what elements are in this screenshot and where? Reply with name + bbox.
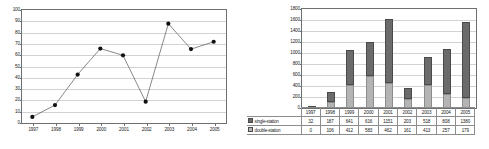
bar-stack [327, 92, 335, 108]
y-axis-tick-mark [300, 97, 302, 98]
bar-stack [404, 88, 412, 108]
table-column-header: 2000 [359, 108, 378, 117]
data-point-marker [189, 47, 193, 51]
table-header-row: 199719981999200020012002200320042005 [247, 108, 475, 117]
bar-segment-double-station [424, 85, 432, 108]
data-point-marker [166, 22, 170, 26]
table-cell: 0 [301, 126, 320, 135]
y-axis-tick-mark [300, 75, 302, 76]
table-cell: 1151 [378, 117, 397, 126]
table-column-header: 2001 [378, 108, 397, 117]
table-cell: 641 [340, 117, 359, 126]
table-cell: 462 [378, 126, 397, 135]
data-point-marker [76, 72, 80, 76]
y-axis-tick-label: 1800 [290, 7, 300, 12]
table-cell: 187 [320, 117, 339, 126]
data-point-marker [98, 46, 102, 50]
legend-item-label: single-station [255, 119, 279, 124]
y-axis-tick-mark [300, 64, 302, 65]
table-cell: 32 [301, 117, 320, 126]
y-axis-tick-label: 600 [293, 73, 300, 78]
bar-chart-plot-area: 020040060080010001200140016001800 [301, 8, 477, 109]
y-axis-tick-label: 1400 [290, 29, 300, 34]
legend-item-label: double-station [255, 128, 281, 133]
table-column-header: 1998 [320, 108, 339, 117]
bar-segment-single-station [327, 92, 335, 102]
bar-chart-panel: 020040060080010001200140016001800 199719… [245, 0, 489, 149]
bar-segment-double-station [346, 85, 354, 108]
y-axis-tick-label: 400 [293, 84, 300, 89]
legend-item-single-station: single-station [247, 117, 301, 126]
y-axis-tick-mark [300, 9, 302, 10]
figure-caption [0, 141, 489, 149]
table-column-header: 2004 [436, 108, 455, 117]
figure-container: 0102030405060708090100199719981999200020… [0, 0, 489, 149]
data-point-marker [30, 115, 34, 119]
bar-segment-double-station [385, 83, 393, 108]
y-axis-tick-mark [300, 53, 302, 54]
y-axis-tick-mark [300, 42, 302, 43]
table-cell: 412 [340, 126, 359, 135]
table-row: double-station0106412583462161413257179 [247, 126, 475, 135]
data-point-marker [53, 103, 57, 107]
y-axis-tick-label: 1200 [290, 40, 300, 45]
data-point-marker [144, 100, 148, 104]
table-cell: 518 [417, 117, 436, 126]
table-row: single-station32187641616115120351880813… [247, 117, 475, 126]
bar-segment-double-station [366, 76, 374, 108]
table-corner-cell [247, 108, 301, 117]
table-cell: 808 [436, 117, 455, 126]
square-swatch-icon [248, 118, 253, 123]
data-point-marker [212, 40, 216, 44]
bar-segment-single-station [385, 19, 393, 82]
table-cell: 179 [456, 126, 475, 135]
table-column-header: 2002 [398, 108, 417, 117]
table-column-header: 2005 [456, 108, 475, 117]
table-cell: 583 [359, 126, 378, 135]
legend-item-double-station: double-station [247, 126, 301, 135]
table-cell: 616 [359, 117, 378, 126]
bar-segment-single-station [443, 49, 451, 93]
bar-stack [346, 50, 354, 108]
bar-segment-single-station [404, 88, 412, 99]
table-cell: 257 [436, 126, 455, 135]
table-column-header: 2003 [417, 108, 436, 117]
bar-stack [462, 22, 470, 108]
line-chart-panel: 0102030405060708090100199719981999200020… [0, 0, 245, 149]
line-path [32, 24, 213, 117]
line-chart-series [0, 0, 245, 149]
y-axis-tick-label: 800 [293, 62, 300, 67]
data-point-marker [121, 53, 125, 57]
table-cell: 106 [320, 126, 339, 135]
y-axis-tick-label: 200 [293, 95, 300, 100]
bar-segment-single-station [346, 50, 354, 85]
y-axis-tick-mark [300, 86, 302, 87]
table-cell: 1380 [456, 117, 475, 126]
bar-segment-single-station [462, 22, 470, 98]
square-swatch-icon [248, 127, 253, 132]
table-column-header: 1997 [301, 108, 320, 117]
table-column-header: 1999 [340, 108, 359, 117]
table-cell: 413 [417, 126, 436, 135]
bar-stack [385, 19, 393, 108]
y-axis-tick-mark [300, 20, 302, 21]
y-axis-tick-mark [300, 31, 302, 32]
bar-segment-single-station [424, 57, 432, 85]
y-axis-tick-label: 1600 [290, 18, 300, 23]
bar-segment-single-station [366, 42, 374, 76]
bar-stack [366, 42, 374, 108]
table-cell: 161 [398, 126, 417, 135]
table-cell: 203 [398, 117, 417, 126]
bar-stack [443, 49, 451, 108]
bar-chart-data-table: 199719981999200020012002200320042005sing… [247, 107, 475, 135]
y-axis-tick-label: 1000 [290, 51, 300, 56]
bar-stack [424, 57, 432, 108]
bar-segment-double-station [443, 94, 451, 108]
